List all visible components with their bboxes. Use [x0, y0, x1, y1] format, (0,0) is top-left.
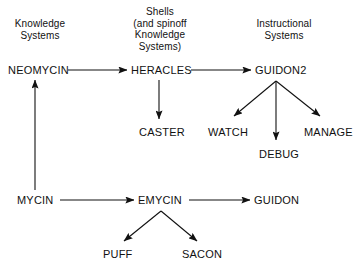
- arrow-emycin-to-puff: [124, 211, 161, 241]
- node-debug: DEBUG: [259, 148, 299, 160]
- arrow-guidon2-to-watch: [234, 81, 276, 116]
- arrow-guidon2-to-manage: [276, 81, 320, 116]
- node-manage: MANAGE: [304, 126, 353, 138]
- diagram-canvas: Knowledge SystemsShells (and spinoff Kno…: [0, 0, 358, 271]
- node-sacon: SACON: [182, 248, 222, 260]
- node-neomycin: NEOMYCIN: [8, 64, 69, 76]
- node-watch: WATCH: [208, 126, 248, 138]
- node-mycin: MYCIN: [17, 194, 53, 206]
- group-heading-knowledge-systems: Knowledge Systems: [8, 18, 72, 41]
- node-heracles: HERACLES: [131, 64, 192, 76]
- group-heading-instructional-systems: Instructional Systems: [248, 18, 320, 41]
- arrow-emycin-to-sacon: [161, 211, 197, 241]
- node-puff: PUFF: [103, 248, 133, 260]
- node-emycin: EMYCIN: [138, 194, 182, 206]
- group-heading-shells-and-spinoff: Shells (and spinoff Knowledge Systems): [124, 6, 196, 52]
- node-guidon2: GUIDON2: [255, 64, 307, 76]
- node-guidon: GUIDON: [254, 194, 299, 206]
- node-caster: CASTER: [139, 126, 185, 138]
